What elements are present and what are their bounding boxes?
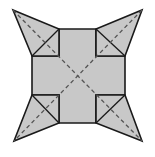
star-figure [0,0,155,157]
origami-star-diagram [0,0,155,157]
